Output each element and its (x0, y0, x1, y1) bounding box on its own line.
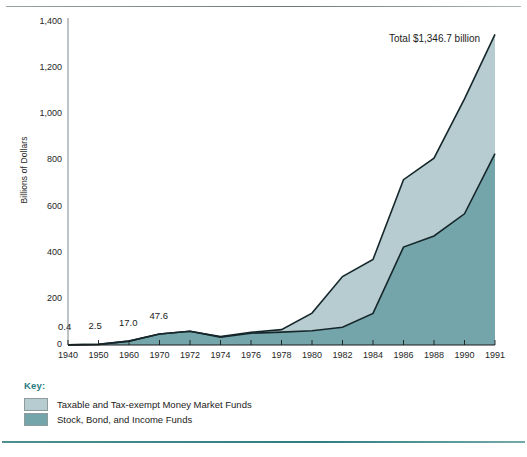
x-tick-label: 1950 (82, 350, 116, 360)
data-point-label: 0.4 (58, 321, 71, 332)
x-tick-label: 1990 (448, 350, 482, 360)
x-tick-label: 1940 (51, 350, 85, 360)
x-tick-label: 1988 (417, 350, 451, 360)
x-tick-label: 1976 (234, 350, 268, 360)
data-point-label: 47.6 (150, 310, 169, 321)
y-tick-label: 400 (22, 247, 62, 257)
x-tick-label: 1972 (173, 350, 207, 360)
legend-label: Stock, Bond, and Income Funds (57, 414, 192, 425)
x-tick-label: 1980 (295, 350, 329, 360)
legend-title: Key: (24, 380, 252, 391)
data-point-label: 17.0 (119, 317, 138, 328)
y-tick-label: 1,200 (22, 62, 62, 72)
legend-item: Stock, Bond, and Income Funds (24, 413, 252, 426)
chart-series-group (68, 34, 495, 345)
y-tick-label: 1,400 (22, 16, 62, 26)
chart-legend: Key: Taxable and Tax-exempt Money Market… (24, 380, 252, 428)
y-tick-label: 200 (22, 293, 62, 303)
x-tick-label: 1978 (265, 350, 299, 360)
area-chart-svg (0, 0, 527, 370)
legend-items: Taxable and Tax-exempt Money Market Fund… (24, 398, 252, 426)
total-annotation: Total $1,346.7 billion (389, 33, 480, 44)
x-tick-label: 1984 (356, 350, 390, 360)
y-axis-title: Billions of Dollars (19, 100, 29, 240)
y-tick-label: 0 (22, 339, 62, 349)
data-point-label: 2.5 (89, 320, 102, 331)
x-tick-label: 1982 (326, 350, 360, 360)
x-tick-label: 1960 (112, 350, 146, 360)
x-tick-label: 1986 (387, 350, 421, 360)
bottom-divider (2, 441, 525, 443)
x-tick-label: 1970 (143, 350, 177, 360)
plot-area: Billions of Dollars 02004006008001,0001,… (0, 0, 527, 370)
y-tick-label: 600 (22, 201, 62, 211)
x-tick-label: 1974 (204, 350, 238, 360)
y-tick-label: 800 (22, 154, 62, 164)
legend-item: Taxable and Tax-exempt Money Market Fund… (24, 398, 252, 411)
legend-swatch (24, 413, 48, 426)
x-tick-label: 1991 (478, 350, 512, 360)
y-tick-label: 1,000 (22, 108, 62, 118)
legend-label: Taxable and Tax-exempt Money Market Fund… (57, 399, 252, 410)
legend-swatch (24, 398, 48, 411)
chart-figure: Billions of Dollars 02004006008001,0001,… (0, 0, 527, 457)
